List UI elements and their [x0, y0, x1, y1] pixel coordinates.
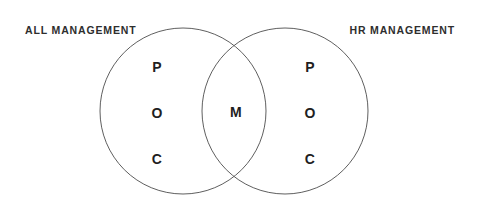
left-set-item-o: O — [145, 106, 169, 120]
intersection-item-m: M — [224, 105, 248, 119]
set-label-hr-management: HR MANAGEMENT — [349, 24, 455, 36]
right-set-item-o: O — [298, 106, 322, 120]
venn-diagram-canvas: ALL MANAGEMENT HR MANAGEMENT P O C M P O… — [0, 0, 479, 209]
right-set-item-c: C — [298, 152, 322, 166]
set-label-all-management: ALL MANAGEMENT — [25, 24, 136, 36]
left-set-item-c: C — [145, 152, 169, 166]
right-set-item-p: P — [298, 60, 322, 74]
left-set-item-p: P — [145, 60, 169, 74]
